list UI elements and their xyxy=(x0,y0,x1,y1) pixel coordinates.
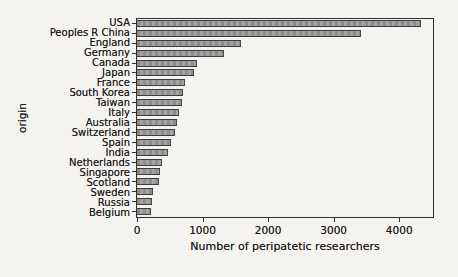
bar-france xyxy=(137,79,185,86)
y-tick-canada xyxy=(132,63,136,64)
y-tick-england xyxy=(132,43,136,44)
x-tick-0 xyxy=(137,218,138,222)
bar-germany xyxy=(137,50,224,57)
y-tick-labels: USAPeoples R ChinaEnglandGermanyCanadaJa… xyxy=(0,18,130,218)
bar-peoples-r-china xyxy=(137,30,361,37)
y-tick-australia xyxy=(132,122,136,123)
plot-area: 01000200030004000 xyxy=(136,18,434,218)
y-tick-scotland xyxy=(132,181,136,182)
y-tick-taiwan xyxy=(132,102,136,103)
x-tick-label-2000: 2000 xyxy=(255,224,282,236)
x-tick-label-3000: 3000 xyxy=(320,224,347,236)
bar-australia xyxy=(137,119,177,126)
y-tick-peoples-r-china xyxy=(132,33,136,34)
y-tick-label-belgium: Belgium xyxy=(89,208,130,218)
bar-switzerland xyxy=(137,129,175,136)
y-tick-spain xyxy=(132,142,136,143)
bar-canada xyxy=(137,60,197,67)
bar-belgium xyxy=(137,208,151,215)
y-tick-singapore xyxy=(132,171,136,172)
bar-italy xyxy=(137,109,179,116)
bar-russia xyxy=(137,198,152,205)
y-tick-netherlands xyxy=(132,162,136,163)
bar-taiwan xyxy=(137,99,182,106)
bar-usa xyxy=(137,20,421,27)
y-tick-germany xyxy=(132,53,136,54)
y-tick-russia xyxy=(132,201,136,202)
figure-canvas: origin USAPeoples R ChinaEnglandGermanyC… xyxy=(0,0,458,277)
y-tick-france xyxy=(132,82,136,83)
bar-south-korea xyxy=(137,89,183,96)
bar-japan xyxy=(137,69,194,76)
bar-sweden xyxy=(137,188,153,195)
x-tick-4000 xyxy=(399,218,400,222)
x-tick-label-1000: 1000 xyxy=(189,224,216,236)
y-tick-sweden xyxy=(132,191,136,192)
y-tick-switzerland xyxy=(132,132,136,133)
y-tick-usa xyxy=(132,23,136,24)
x-tick-label-0: 0 xyxy=(134,224,141,236)
bar-netherlands xyxy=(137,159,162,166)
bar-singapore xyxy=(137,168,160,175)
x-tick-2000 xyxy=(268,218,269,222)
x-axis-label: Number of peripatetic researchers xyxy=(136,240,434,253)
bar-spain xyxy=(137,139,171,146)
bar-england xyxy=(137,40,241,47)
y-tick-belgium xyxy=(132,211,136,212)
x-tick-3000 xyxy=(334,218,335,222)
y-tick-south-korea xyxy=(132,92,136,93)
bar-scotland xyxy=(137,178,159,185)
y-tick-italy xyxy=(132,112,136,113)
y-tick-japan xyxy=(132,72,136,73)
x-tick-1000 xyxy=(203,218,204,222)
y-tick-india xyxy=(132,152,136,153)
bar-india xyxy=(137,149,168,156)
x-tick-label-4000: 4000 xyxy=(386,224,413,236)
